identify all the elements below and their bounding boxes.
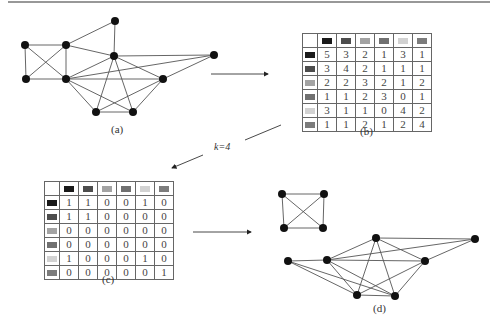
color-swatch <box>305 52 315 58</box>
matrix-cell: 1 <box>136 252 155 266</box>
matrix-cell: 1 <box>136 196 155 210</box>
row-header <box>45 252 60 266</box>
row-header <box>45 266 60 280</box>
matrix-cell: 1 <box>318 118 337 132</box>
matrix-cell: 0 <box>375 104 394 118</box>
matrix-cell: 0 <box>117 196 136 210</box>
graph-node <box>323 256 331 264</box>
graph-node <box>353 291 361 299</box>
color-swatch <box>379 38 389 44</box>
matrix-cell: 0 <box>79 266 98 280</box>
matrix-cell: 1 <box>318 90 337 104</box>
caption-a: (a) <box>111 123 123 135</box>
matrix-row: 223212 <box>303 76 432 90</box>
arrow-line <box>245 125 281 140</box>
color-swatch <box>47 214 57 220</box>
matrix-cell: 0 <box>136 266 155 280</box>
matrix-corner <box>303 34 318 48</box>
graph-node <box>280 224 288 232</box>
matrix-cell: 0 <box>394 90 413 104</box>
matrix-row: 112301 <box>303 90 432 104</box>
column-header <box>117 182 136 196</box>
graph-node <box>21 41 29 49</box>
graph-edge <box>323 194 324 228</box>
column-header <box>60 182 79 196</box>
matrix-cell: 2 <box>356 48 375 62</box>
graph-edge <box>96 56 114 112</box>
matrix-cell: 4 <box>394 104 413 118</box>
graph-node <box>421 257 429 265</box>
matrix-cell: 2 <box>413 76 432 90</box>
arrow-line <box>172 155 203 168</box>
row-header <box>45 224 60 238</box>
matrix-cell: 2 <box>413 104 432 118</box>
graph-edge <box>395 261 425 296</box>
matrix-row: 000000 <box>45 238 174 252</box>
matrix-cell: 0 <box>117 266 136 280</box>
caption-d: (d) <box>373 302 386 314</box>
matrix-cell: 0 <box>117 210 136 224</box>
matrix-cell: 1 <box>356 104 375 118</box>
matrix-cell: 3 <box>394 48 413 62</box>
graph-edge <box>163 55 214 79</box>
column-header <box>79 182 98 196</box>
graph-edge <box>327 260 425 261</box>
arrows <box>172 74 281 232</box>
column-header <box>155 182 174 196</box>
graph-edge <box>133 79 163 112</box>
matrix-cell: 1 <box>375 62 394 76</box>
color-swatch <box>360 38 370 44</box>
matrix-cell: 1 <box>375 118 394 132</box>
matrix-cell: 4 <box>337 62 356 76</box>
matrix-cell: 3 <box>356 76 375 90</box>
graph-node <box>372 234 380 242</box>
matrix-cell: 0 <box>98 238 117 252</box>
color-swatch <box>83 186 93 192</box>
matrix-cell: 2 <box>356 62 375 76</box>
graph-edge <box>66 79 133 112</box>
matrix-row: 100010 <box>45 252 174 266</box>
graph-edge <box>376 238 475 239</box>
graph-node <box>129 108 137 116</box>
matrix-cell: 1 <box>413 48 432 62</box>
matrix-cell: 1 <box>60 196 79 210</box>
k-label: k=4 <box>214 141 230 152</box>
color-swatch <box>47 200 57 206</box>
graph-node <box>62 75 70 83</box>
matrix-row: 311042 <box>303 104 432 118</box>
graph-edge <box>114 56 163 79</box>
matrix-b: 532131342111223212112301311042112124 <box>302 33 432 132</box>
matrix-cell: 0 <box>98 196 117 210</box>
matrix-cell: 0 <box>155 252 174 266</box>
row-header <box>45 196 60 210</box>
column-header <box>318 34 337 48</box>
matrix-cell: 1 <box>79 196 98 210</box>
matrix-cell: 1 <box>337 104 356 118</box>
row-header <box>45 238 60 252</box>
graph-node <box>62 41 70 49</box>
row-header <box>303 76 318 90</box>
column-header <box>356 34 375 48</box>
matrix-cell: 1 <box>60 210 79 224</box>
matrix-cell: 1 <box>337 90 356 104</box>
matrix-cell: 0 <box>98 252 117 266</box>
matrix-cell: 0 <box>60 224 79 238</box>
graph-edge <box>114 21 115 56</box>
matrix-cell: 1 <box>155 266 174 280</box>
matrix-cell: 3 <box>318 104 337 118</box>
matrix-cell: 1 <box>60 252 79 266</box>
column-header <box>136 182 155 196</box>
color-swatch <box>305 94 315 100</box>
color-swatch <box>305 80 315 86</box>
color-swatch <box>102 186 112 192</box>
graph-node <box>471 235 479 243</box>
graph-edge <box>284 194 324 228</box>
matrix-cell: 0 <box>79 224 98 238</box>
matrix-cell: 3 <box>318 62 337 76</box>
matrix-cell: 2 <box>394 118 413 132</box>
graph-edge <box>25 45 26 79</box>
color-swatch <box>47 256 57 262</box>
color-swatch <box>341 38 351 44</box>
color-swatch <box>322 38 332 44</box>
row-header <box>45 210 60 224</box>
